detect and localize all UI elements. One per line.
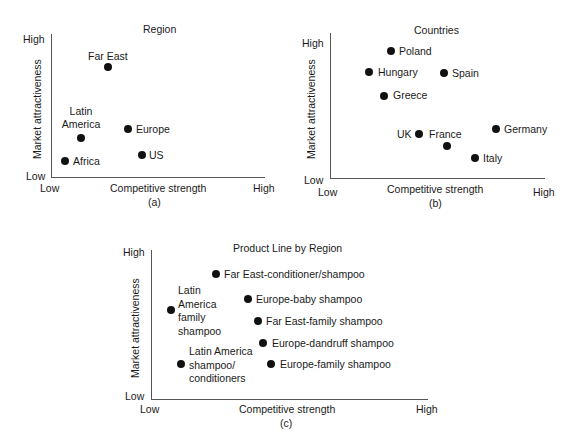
point-label: Europe-baby shampoo xyxy=(256,293,362,306)
data-point xyxy=(177,360,185,368)
x-tick-low: Low xyxy=(140,403,159,415)
y-axis xyxy=(330,33,331,178)
data-point xyxy=(365,68,373,76)
y-tick-low: Low xyxy=(304,174,323,186)
point-label: Latin America shampoo/ conditioners xyxy=(189,345,253,386)
point-label: UK xyxy=(397,128,412,141)
data-point xyxy=(415,130,423,138)
chart-countries: Countries High Low Market attractiveness… xyxy=(0,0,573,215)
point-label: Far East-conditioner/shampoo xyxy=(224,268,365,281)
data-point xyxy=(471,154,479,162)
data-point xyxy=(244,295,252,303)
x-tick-high: High xyxy=(533,186,555,198)
point-label: Germany xyxy=(504,123,547,136)
y-axis-label: Market attractiveness xyxy=(305,59,317,159)
y-axis-label: Market attractiveness xyxy=(129,278,141,378)
data-point xyxy=(440,69,448,77)
point-label: Far East-family shampoo xyxy=(266,315,383,328)
point-label: Italy xyxy=(483,152,502,165)
point-label: Latin America family shampoo xyxy=(178,284,221,338)
point-label: Greece xyxy=(393,89,427,102)
data-point xyxy=(267,360,275,368)
x-tick-low: Low xyxy=(318,186,337,198)
point-label: Poland xyxy=(399,45,432,58)
data-point xyxy=(443,142,451,150)
x-axis xyxy=(330,178,545,179)
data-point xyxy=(212,270,220,278)
x-axis-label: Competitive strength xyxy=(239,403,335,415)
x-tick-high: High xyxy=(416,403,438,415)
point-label: Europe-dandruff shampoo xyxy=(272,337,394,350)
data-point xyxy=(492,125,500,133)
data-point xyxy=(380,92,388,100)
chart-caption: (c) xyxy=(280,417,292,429)
data-point xyxy=(254,317,262,325)
data-point xyxy=(167,306,175,314)
point-label: Hungary xyxy=(378,66,418,79)
chart-title: Countries xyxy=(414,24,459,36)
chart-caption: (b) xyxy=(429,197,442,209)
y-tick-low: Low xyxy=(125,390,144,402)
point-label: Spain xyxy=(452,67,479,80)
chart-title: Product Line by Region xyxy=(233,242,342,254)
y-axis xyxy=(151,250,152,400)
y-tick-high: High xyxy=(302,37,324,49)
y-tick-high: High xyxy=(123,246,145,258)
data-point xyxy=(259,339,267,347)
x-axis-label: Competitive strength xyxy=(387,183,483,195)
point-label: France xyxy=(429,128,462,141)
data-point xyxy=(387,47,395,55)
point-label: Europe-family shampoo xyxy=(280,358,391,371)
x-axis xyxy=(151,399,428,400)
chart-product-line-by-region: Product Line by Region High Low Market a… xyxy=(0,220,573,441)
